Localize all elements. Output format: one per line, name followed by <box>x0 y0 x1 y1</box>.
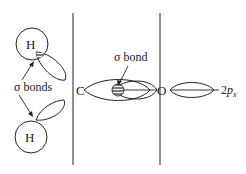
oxygen-2px-orbital <box>170 83 219 98</box>
orbital-diagram: H H C O σ bonds σ bond 2px <box>0 0 246 174</box>
carbon-label: C <box>76 83 85 98</box>
hydrogen-top <box>16 28 66 80</box>
oxygen-label: O <box>157 83 166 98</box>
h-top-label: H <box>26 37 35 52</box>
hydrogen-bottom <box>15 100 65 153</box>
sigma-bond-label: σ bond <box>114 50 147 64</box>
sigma-bonds-label: σ bonds <box>14 80 52 94</box>
orbital-2px-label: 2px <box>221 83 237 99</box>
sp-lobe-bottom <box>36 100 65 120</box>
h-bottom-label: H <box>25 130 34 145</box>
c-o-sigma-bond <box>84 66 157 101</box>
